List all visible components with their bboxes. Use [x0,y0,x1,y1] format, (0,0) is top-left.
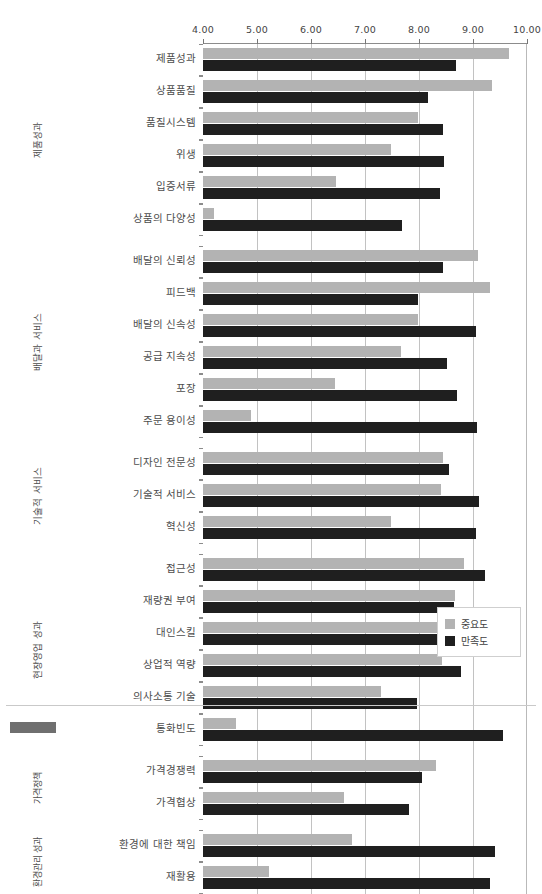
bar-row: 가격협상 [0,788,542,820]
y-tick-mark [199,862,203,863]
bar-importance [203,484,441,495]
bar-importance [203,176,336,187]
bar-satisfaction [203,730,503,741]
category-label: 위생 [0,146,196,161]
bar-satisfaction [203,772,422,783]
legend-item-importance: 중요도 [445,616,513,631]
category-label: 피드백 [0,284,196,299]
category-label: 기술적 서비스 [0,486,196,501]
bar-satisfaction [203,262,443,273]
bar-importance [203,718,236,729]
y-tick-mark [199,650,203,651]
y-tick-mark [199,140,203,141]
bar-row: 접근성 [0,554,542,586]
y-tick-mark [199,480,203,481]
y-tick-mark [199,756,203,757]
bar-importance [203,866,269,877]
y-tick-mark [199,618,203,619]
y-tick-mark [199,374,203,375]
category-label: 디자인 전문성 [0,454,196,469]
bar-importance [203,144,391,155]
bar-row: 포장 [0,374,542,406]
y-tick-mark [199,448,203,449]
bar-satisfaction [203,60,456,71]
footer-mark [10,722,56,733]
bar-importance [203,834,352,845]
bar-importance [203,410,251,421]
bar-row: 통화빈도 [0,714,542,746]
y-tick-mark [199,682,203,683]
bar-satisfaction [203,496,479,507]
y-tick-mark [199,278,203,279]
category-label: 대인스킬 [0,624,196,639]
category-label: 환경에 대한 책임 [0,836,196,851]
bar-satisfaction [203,464,449,475]
category-label: 상업적 역량 [0,656,196,671]
bar-importance [203,792,344,803]
category-label: 혁신성 [0,518,196,533]
bar-satisfaction [203,666,461,677]
x-tick-label: 10.00 [513,24,541,35]
group-label: 배달과 서비스 [31,246,45,438]
bar-row: 공급 지속성 [0,342,542,374]
bar-satisfaction [203,804,409,815]
legend-label-satisfaction: 만족도 [461,633,488,648]
chart-legend: 중요도 만족도 [437,607,521,657]
bar-satisfaction [203,878,490,889]
group-label: 가격정책 [31,756,45,820]
category-label: 가격협상 [0,794,196,809]
legend-swatch-importance [445,619,455,629]
bar-importance [203,558,464,569]
y-tick-mark [199,342,203,343]
category-label: 재활용 [0,868,196,883]
bar-row: 재활용 [0,862,542,894]
bar-importance [203,314,418,325]
x-tick-label: 6.00 [300,24,322,35]
y-tick-mark [199,44,203,45]
bar-satisfaction [203,92,428,103]
group-label: 기술적 서비스 [31,448,45,544]
category-label: 상품품질 [0,82,196,97]
category-label: 품질시스템 [0,114,196,129]
y-tick-mark [199,554,203,555]
category-label: 주문 용이성 [0,412,196,427]
bar-row: 상품품질 [0,76,542,108]
bar-row: 품질시스템 [0,108,542,140]
bar-row: 제품성과 [0,44,542,76]
bar-row: 가격경쟁력 [0,756,542,788]
bar-satisfaction [203,326,476,337]
bar-importance [203,282,490,293]
bar-importance [203,346,401,357]
y-tick-mark [199,406,203,407]
y-tick-mark [199,437,203,438]
bar-satisfaction [203,846,495,857]
category-label: 가격경쟁력 [0,762,196,777]
x-tick-label: 9.00 [462,24,484,35]
bar-row: 의사소통 기술 [0,682,542,714]
bar-row: 환경에 대한 책임 [0,830,542,862]
y-tick-mark [199,512,203,513]
category-label: 배달의 신뢰성 [0,252,196,267]
legend-label-importance: 중요도 [461,616,488,631]
y-tick-mark [199,235,203,236]
y-tick-mark [199,586,203,587]
y-tick-mark [199,745,203,746]
bar-satisfaction [203,294,418,305]
bar-importance [203,760,436,771]
bar-satisfaction [203,422,477,433]
bar-satisfaction [203,570,485,581]
bar-row: 입증서류 [0,172,542,204]
category-label: 상품의 다양성 [0,210,196,225]
y-tick-mark [199,204,203,205]
bar-satisfaction [203,188,440,199]
bar-row: 위생 [0,140,542,172]
bar-row: 디자인 전문성 [0,448,542,480]
bar-importance [203,516,391,527]
category-label: 접근성 [0,560,196,575]
category-label: 재량권 부여 [0,592,196,607]
group-label: 현장영업 성과 [31,554,45,746]
category-label: 배달의 신속성 [0,316,196,331]
category-label: 포장 [0,380,196,395]
bar-importance [203,208,214,219]
bar-satisfaction [203,602,454,613]
